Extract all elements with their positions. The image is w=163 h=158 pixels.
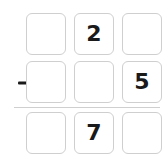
minuend-row: 2	[0, 13, 163, 57]
subtrahend-ones-box[interactable]: 5	[122, 61, 162, 103]
difference-row: 7	[0, 112, 163, 156]
minuend-tens-box[interactable]: 2	[74, 13, 114, 55]
difference-ones-box[interactable]	[122, 112, 162, 154]
subtrahend-operator-slot	[0, 61, 26, 105]
difference-operator-slot	[0, 112, 26, 156]
minuend-hundreds-cell	[26, 13, 70, 57]
minuend-hundreds-box[interactable]	[26, 13, 66, 55]
subtrahend-tens-box[interactable]	[74, 61, 114, 103]
minuend-tens-cell: 2	[74, 13, 118, 57]
difference-ones-cell	[122, 112, 163, 156]
subtrahend-tens-cell	[74, 61, 118, 105]
answer-rule-divider	[14, 107, 160, 108]
difference-hundreds-cell	[26, 112, 70, 156]
difference-hundreds-box[interactable]	[26, 112, 66, 154]
subtrahend-ones-cell: 5	[122, 61, 163, 105]
difference-tens-box[interactable]: 7	[74, 112, 114, 154]
minuend-ones-box[interactable]	[122, 13, 162, 55]
subtrahend-hundreds-box[interactable]	[26, 61, 66, 103]
subtrahend-row: 5	[0, 61, 163, 105]
subtraction-worksheet: 2 5 7	[0, 0, 163, 158]
minuend-operator-slot	[0, 13, 26, 57]
subtrahend-hundreds-cell	[26, 61, 70, 105]
difference-tens-cell: 7	[74, 112, 118, 156]
minuend-ones-cell	[122, 13, 163, 57]
